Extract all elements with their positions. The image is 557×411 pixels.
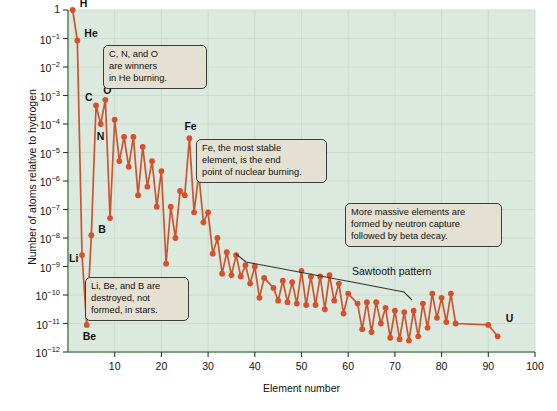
element-label-fe: Fe bbox=[184, 120, 196, 132]
x-axis-title: Element number bbox=[68, 382, 535, 394]
neutron-capture-callout: More massive elements are formed by neut… bbox=[345, 203, 502, 247]
element-label-h: H bbox=[80, 0, 88, 9]
x-tick-label: 40 bbox=[235, 360, 275, 372]
y-tick-label: 10−3 bbox=[16, 89, 60, 103]
y-tick-label: 10−12 bbox=[16, 345, 60, 359]
element-label-be: Be bbox=[83, 330, 96, 342]
x-tick-label: 30 bbox=[188, 360, 228, 372]
y-axis-title: Number of atoms relative to hydrogen bbox=[26, 52, 38, 302]
element-label-b: B bbox=[98, 223, 106, 235]
element-label-li: Li bbox=[69, 252, 78, 264]
light-element-callout: Li, Be, and B are destroyed, not formed,… bbox=[85, 277, 189, 321]
y-tick-label: 10−2 bbox=[16, 60, 60, 74]
sawtooth-pattern-label: Sawtooth pattern bbox=[352, 265, 431, 277]
x-tick-label: 20 bbox=[141, 360, 181, 372]
x-tick-label: 70 bbox=[375, 360, 415, 372]
element-label-c: C bbox=[85, 91, 93, 103]
y-tick-label: 10−11 bbox=[16, 317, 60, 331]
y-tick-label: 10−6 bbox=[16, 174, 60, 188]
y-tick-label: 10−9 bbox=[16, 260, 60, 274]
iron-peak-callout: Fe, the most stable element, is the end … bbox=[196, 139, 327, 183]
element-label-n: N bbox=[97, 130, 105, 142]
x-tick-label: 10 bbox=[95, 360, 135, 372]
y-tick-label: 10−5 bbox=[16, 146, 60, 160]
y-tick-label: 10−4 bbox=[16, 117, 60, 131]
y-tick-label: 1 bbox=[16, 3, 60, 15]
y-tick-label: 10−8 bbox=[16, 231, 60, 245]
x-tick-label: 80 bbox=[422, 360, 462, 372]
abundance-chart-figure: 110−110−210−310−410−510−610−710−810−910−… bbox=[0, 0, 557, 411]
element-label-u: U bbox=[506, 312, 514, 324]
x-tick-label: 60 bbox=[328, 360, 368, 372]
he-burning-callout: C, N, and O are winners in He burning. bbox=[103, 45, 207, 89]
y-tick-label: 10−1 bbox=[16, 32, 60, 46]
y-tick-label: 10−7 bbox=[16, 203, 60, 217]
x-tick-label: 100 bbox=[515, 360, 555, 372]
x-tick-label: 50 bbox=[282, 360, 322, 372]
element-label-he: He bbox=[84, 27, 97, 39]
x-tick-label: 90 bbox=[468, 360, 508, 372]
y-tick-label: 10−10 bbox=[16, 288, 60, 302]
